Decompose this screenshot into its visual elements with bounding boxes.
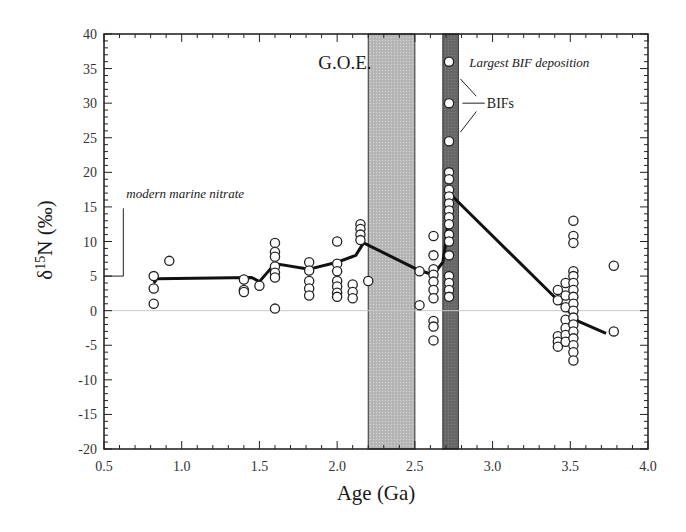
data-point <box>609 261 618 270</box>
data-point <box>333 292 342 301</box>
y-tick-label: -20 <box>78 442 97 457</box>
data-point <box>270 273 279 282</box>
x-tick-label: 1.0 <box>173 459 191 474</box>
x-tick-label: 2.5 <box>406 459 424 474</box>
x-tick-label: 1.5 <box>251 459 269 474</box>
bif-leader <box>460 111 476 132</box>
data-point <box>305 291 314 300</box>
annotations: G.O.E.Largest BIF depositionBIFsmodern m… <box>104 52 589 277</box>
data-point <box>149 271 158 280</box>
bif-leader <box>460 79 476 96</box>
data-point <box>415 267 424 276</box>
data-point <box>348 294 357 303</box>
data-point <box>333 237 342 246</box>
y-tick-label: 15 <box>83 200 97 215</box>
x-tick-label: 0.5 <box>95 459 113 474</box>
modern-nitrate-label: modern marine nitrate <box>126 186 244 201</box>
largest-bif-label: Largest BIF deposition <box>468 55 589 70</box>
data-point <box>356 236 365 245</box>
modern-nitrate-bracket <box>104 208 123 276</box>
data-point <box>444 220 453 229</box>
x-tick-label: 4.0 <box>639 459 657 474</box>
bifs-label: BIFs <box>487 96 514 111</box>
data-point <box>444 175 453 184</box>
x-axis-title: Age (Ga) <box>337 481 416 505</box>
data-point <box>270 252 279 261</box>
y-tick-label: 25 <box>83 131 97 146</box>
data-point <box>569 238 578 247</box>
data-point <box>444 57 453 66</box>
data-point <box>429 336 438 345</box>
data-point <box>444 251 453 260</box>
data-point <box>149 299 158 308</box>
y-tick-label: -15 <box>78 407 97 422</box>
data-point <box>364 276 373 285</box>
tick-labels: 0.51.01.52.02.53.03.54.04035302520151050… <box>78 27 656 474</box>
data-point <box>429 251 438 260</box>
data-point <box>609 327 618 336</box>
y-tick-label: 20 <box>83 165 97 180</box>
data-point <box>429 231 438 240</box>
y-tick-label: -5 <box>85 338 97 353</box>
data-point <box>305 266 314 275</box>
x-tick-label: 3.0 <box>484 459 502 474</box>
region-goe <box>368 34 415 449</box>
y-tick-label: -10 <box>78 373 97 388</box>
data-point <box>333 267 342 276</box>
data-point <box>270 304 279 313</box>
data-point <box>444 137 453 146</box>
data-point <box>239 275 248 284</box>
y-axis-title: δ15N (‰) <box>33 200 57 279</box>
y-tick-label: 10 <box>83 235 97 250</box>
data-point <box>569 216 578 225</box>
data-point <box>429 322 438 331</box>
y-tick-label: 5 <box>90 269 97 284</box>
goe-label: G.O.E. <box>318 52 371 73</box>
data-point <box>270 238 279 247</box>
x-tick-label: 3.5 <box>562 459 580 474</box>
y-tick-label: 30 <box>83 96 97 111</box>
data-point <box>149 284 158 293</box>
y-tick-label: 0 <box>90 304 97 319</box>
data-point <box>239 287 248 296</box>
data-point <box>165 256 174 265</box>
data-point <box>415 301 424 310</box>
data-point <box>444 292 453 301</box>
data-point <box>429 294 438 303</box>
data-point <box>255 281 264 290</box>
d15n-age-chart: 0.51.01.52.02.53.03.54.04035302520151050… <box>0 0 686 532</box>
x-tick-label: 2.0 <box>328 459 346 474</box>
data-point <box>444 237 453 246</box>
y-tick-label: 35 <box>83 62 97 77</box>
y-tick-label: 40 <box>83 27 97 42</box>
data-point <box>444 99 453 108</box>
data-point <box>569 356 578 365</box>
